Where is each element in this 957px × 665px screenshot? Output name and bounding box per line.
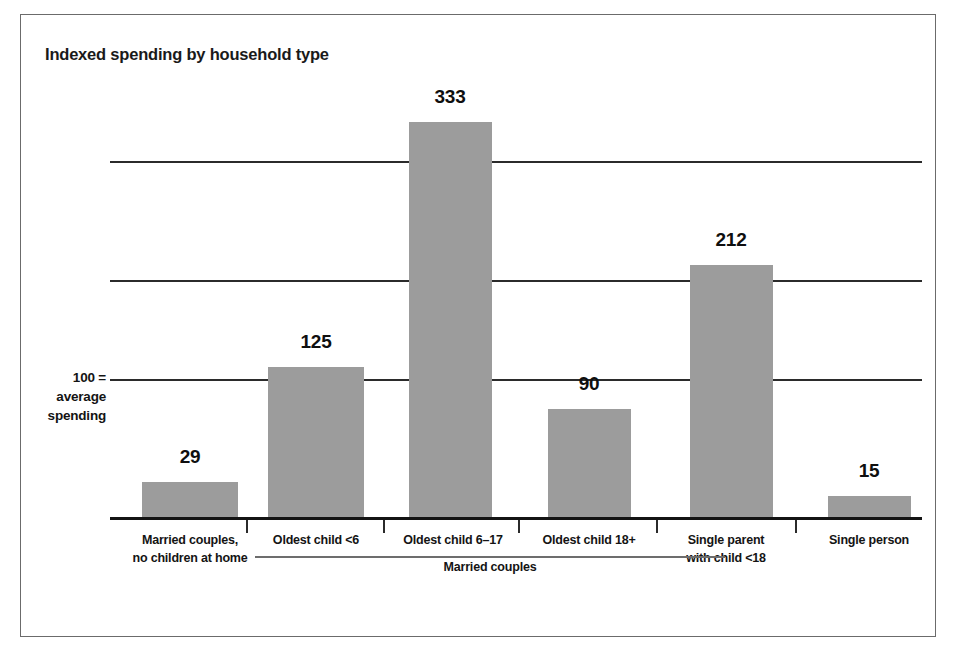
bar-value-4: 90 xyxy=(539,373,639,395)
bar-married-couples-no-children[interactable] xyxy=(142,482,238,517)
chart-figure: Indexed spending by household type 100 =… xyxy=(0,0,957,665)
bar-label-6: Single person xyxy=(800,531,938,549)
bar-value-6: 15 xyxy=(819,460,919,482)
gridline-200 xyxy=(110,280,922,282)
axis-tick-2 xyxy=(383,520,385,533)
group-bracket-line xyxy=(255,556,725,558)
bar-label-1: Married couples, no children at home xyxy=(110,531,270,567)
gridline-300 xyxy=(110,161,922,163)
bar-label-2: Oldest child <6 xyxy=(249,531,383,549)
bar-single-parent-with-child[interactable] xyxy=(690,265,773,517)
y-axis-caption-line-1: 100 = xyxy=(38,368,106,387)
bar-label-3-line-1: Oldest child 6–17 xyxy=(386,531,520,549)
group-bracket-label: Married couples xyxy=(255,560,725,574)
gridline-100 xyxy=(110,379,922,381)
bar-value-5: 212 xyxy=(681,229,781,251)
bar-label-1-line-1: Married couples, xyxy=(110,531,270,549)
bar-label-4-line-1: Oldest child 18+ xyxy=(522,531,656,549)
bar-single-person[interactable] xyxy=(828,496,911,517)
axis-tick-4 xyxy=(656,520,658,533)
axis-tick-5 xyxy=(795,520,797,533)
bar-oldest-child-6-17[interactable] xyxy=(409,122,492,517)
bar-oldest-child-under-6[interactable] xyxy=(268,367,364,517)
bar-value-1: 29 xyxy=(140,446,240,468)
x-axis-baseline xyxy=(110,517,922,520)
y-axis-caption-line-2: average xyxy=(38,387,106,406)
bar-label-1-line-2: no children at home xyxy=(110,549,270,567)
bar-oldest-child-18-plus[interactable] xyxy=(548,409,631,517)
bar-label-4: Oldest child 18+ xyxy=(522,531,656,549)
bar-label-2-line-1: Oldest child <6 xyxy=(249,531,383,549)
bar-label-3: Oldest child 6–17 xyxy=(386,531,520,549)
bar-value-2: 125 xyxy=(266,331,366,353)
y-axis-caption: 100 = average spending xyxy=(38,368,106,425)
bar-label-5-line-1: Single parent xyxy=(659,531,793,549)
y-axis-caption-line-3: spending xyxy=(38,406,106,425)
plot-area: 100 = average spending 29 Married couple… xyxy=(0,0,957,665)
bar-value-3: 333 xyxy=(400,86,500,108)
bar-label-6-line-1: Single person xyxy=(800,531,938,549)
